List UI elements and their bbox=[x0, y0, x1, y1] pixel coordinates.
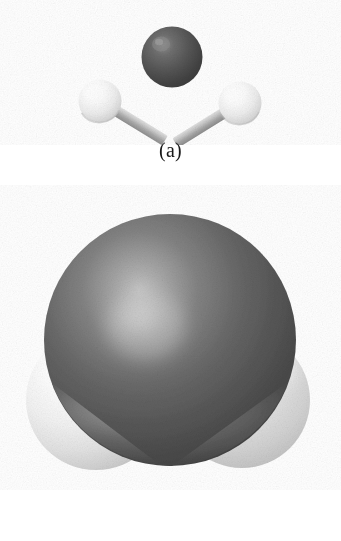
space-filling-svg bbox=[0, 185, 341, 490]
atom-hydrogen-right bbox=[219, 82, 262, 125]
panel-space-filling: (b) bbox=[0, 185, 341, 541]
panel-ball-and-stick: (a) bbox=[0, 0, 341, 180]
ball-and-stick-svg bbox=[0, 0, 341, 145]
figure-root: (a) bbox=[0, 0, 341, 541]
space-filling-model-stage bbox=[0, 185, 341, 490]
atom-hydrogen-left bbox=[79, 80, 122, 123]
atom-oxygen bbox=[142, 27, 203, 88]
ball-and-stick-model-stage bbox=[0, 0, 341, 145]
atom-oxygen bbox=[44, 214, 296, 466]
panel-a-caption: (a) bbox=[0, 140, 341, 160]
